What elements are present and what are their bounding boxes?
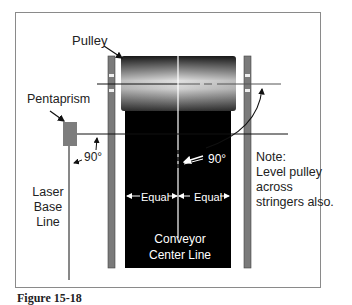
pulley-label: Pulley: [72, 34, 107, 48]
center-line-label: Conveyor Center Line: [148, 231, 212, 263]
right-stringer: [244, 56, 251, 268]
pentaprism-leader-arrow: [50, 111, 64, 121]
laser-label-line3: Line: [30, 215, 66, 230]
equal-right-label: Equal: [194, 190, 222, 204]
center-line-label-2: Center Line: [148, 247, 212, 263]
left-stringer: [108, 56, 115, 268]
pentaprism-label: Pentaprism: [27, 92, 90, 106]
note-line-2: Level pulley: [256, 165, 334, 180]
note-line-1: Note:: [256, 150, 334, 165]
center-line-label-1: Conveyor: [148, 231, 212, 247]
note-line-4: stringers also.: [256, 195, 334, 210]
left-angle-label: 90°: [84, 150, 102, 164]
pentaprism: [63, 122, 77, 146]
note-line-3: across: [256, 180, 334, 195]
figure-caption: Figure 15-18: [17, 292, 82, 304]
laser-label-line2: Base: [30, 200, 66, 215]
equal-left-label: Equal: [141, 190, 169, 204]
laser-base-line-label: Laser Base Line: [30, 185, 66, 230]
right-angle-label: 90°: [208, 152, 226, 166]
note-text: Note: Level pulley across stringers also…: [256, 150, 334, 210]
laser-label-line1: Laser: [30, 185, 66, 200]
